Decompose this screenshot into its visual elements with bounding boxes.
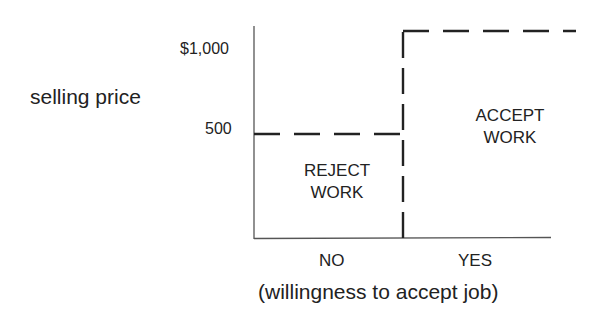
x-category-yes: YES bbox=[458, 251, 492, 271]
reject-line2: WORK bbox=[282, 182, 392, 204]
x-category-no: NO bbox=[319, 251, 345, 271]
y-tick-1000: $1,000 bbox=[180, 40, 229, 58]
x-axis-label: (willingness to accept job) bbox=[258, 280, 498, 304]
reject-line1: REJECT bbox=[282, 160, 392, 182]
y-axis-label: selling price bbox=[30, 85, 141, 109]
y-tick-500: 500 bbox=[205, 120, 232, 138]
accept-line1: ACCEPT bbox=[460, 105, 560, 127]
reject-work-region-label: REJECT WORK bbox=[282, 160, 392, 204]
accept-line2: WORK bbox=[460, 127, 560, 149]
accept-work-region-label: ACCEPT WORK bbox=[460, 105, 560, 149]
